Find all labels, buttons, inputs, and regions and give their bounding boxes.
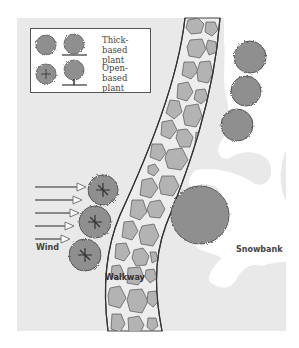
open-based-plant-icon [79, 206, 111, 238]
open-based-plant-icon [69, 239, 101, 271]
thick-based-plant-side-icon [62, 34, 87, 55]
thick-based-plant-icon [231, 76, 261, 106]
snowbank-label: Snowbank [236, 245, 282, 254]
thick-based-plant-icon [221, 109, 253, 141]
thick-based-plant-icon [36, 35, 56, 55]
legend: Thick-based plant Open-based plant [30, 28, 151, 93]
open-based-plant-icon [36, 64, 56, 84]
walkway-label: Walkway [105, 273, 145, 282]
legend-label-thick-based: Thick-based plant [102, 35, 150, 65]
legend-label-open-based: Open-based plant [102, 63, 150, 93]
wind-label: Wind [36, 243, 59, 252]
large-thick-based-plant-icon [171, 186, 229, 244]
open-based-plant-icon [88, 175, 118, 205]
diagram-scene: Thick-based plant Open-based plant Wind … [0, 0, 299, 348]
legend-icons [31, 29, 101, 92]
thick-based-plant-icon [234, 41, 266, 73]
open-based-plant-side-icon [62, 60, 87, 85]
